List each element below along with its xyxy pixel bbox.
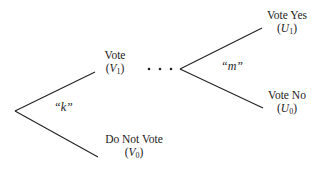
node-vote-symbol: (V1) [95,62,135,75]
node-vote-no-label: Vote No [261,89,313,102]
node-vote-no: Vote No (U0) [261,89,313,115]
node-vote-yes: Vote Yes (U1) [259,9,315,35]
branch-vote-no [180,69,263,108]
edge-label-k: “k” [54,100,73,115]
node-vote-yes-label: Vote Yes [259,9,315,22]
ellipsis-dot-3 [170,68,173,71]
ellipsis-dot-2 [159,68,162,71]
node-do-not-vote: Do Not Vote (V0) [96,133,172,159]
node-vote-no-symbol: (U0) [261,102,313,115]
node-vote-label: Vote [95,49,135,62]
branch-do-not-vote [15,111,98,157]
node-do-not-vote-symbol: (V0) [96,146,172,159]
node-vote: Vote (V1) [95,49,135,75]
node-do-not-vote-label: Do Not Vote [96,133,172,146]
ellipsis-dot-1 [148,68,151,71]
edge-label-m: “m” [221,59,243,74]
node-vote-yes-symbol: (U1) [259,22,315,35]
